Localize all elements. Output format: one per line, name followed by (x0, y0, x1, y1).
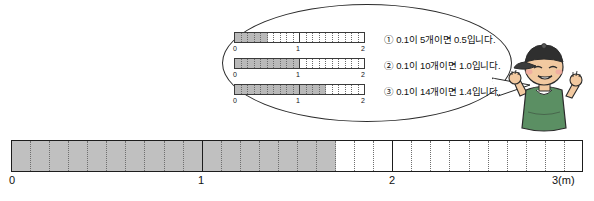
number-line-cell (12, 141, 31, 171)
number-line-cell (470, 141, 489, 171)
mini-bar-3-tick-1: 1 (296, 96, 300, 105)
number-line-cell (393, 141, 412, 171)
number-line-cell (489, 141, 508, 171)
mini-bar-2-tick-2: 2 (361, 70, 365, 79)
number-line-label-3: 3(m) (552, 173, 575, 187)
number-line-tick-1 (202, 140, 203, 172)
mini-bar-row-2: 0 1 2 (234, 58, 366, 80)
number-line-cell (69, 141, 88, 171)
number-line-cell (50, 141, 69, 171)
number-line-cell (145, 141, 164, 171)
number-line-cell (546, 141, 565, 171)
number-line-label-2: 2 (389, 173, 395, 187)
mini-cell (359, 59, 366, 68)
number-line-cell (431, 141, 450, 171)
number-line-cell (203, 141, 222, 171)
bubble-text-2: ② 0.1이 10개이면 1.0입니다. (384, 58, 501, 72)
bubble-row-1: 0 1 2 ① 0.1이 5개이면 0.5입니다. (234, 32, 514, 54)
bubble-text-1: ① 0.1이 5개이면 0.5입니다. (384, 32, 495, 46)
number-line-cell (241, 141, 260, 171)
number-line-cell (222, 141, 241, 171)
boy-character-icon (506, 38, 584, 132)
number-line-cell (184, 141, 203, 171)
number-line-cell (336, 141, 355, 171)
number-line-cell (355, 141, 374, 171)
mini-bar-2-labels: 0 1 2 (234, 70, 366, 80)
mini-bar-1-tick-1: 1 (296, 44, 300, 53)
number-line-label-0: 0 (9, 173, 15, 187)
number-line-cell (260, 141, 279, 171)
bubble-text-3: ③ 0.1이 14개이면 1.4입니다. (384, 84, 501, 98)
mini-bar-3-tick-2: 2 (361, 96, 365, 105)
mini-bar-2-tick-0: 0 (233, 70, 237, 79)
number-line-cell (107, 141, 126, 171)
mini-bar-1-tick-0: 0 (233, 44, 237, 53)
mini-cell (359, 33, 366, 42)
worksheet-figure: 0 1 2 ① 0.1이 5개이면 0.5입니다. 0 1 2 ② 0.1이 1… (0, 0, 594, 201)
number-line-bar (11, 140, 583, 172)
number-line-cell (508, 141, 527, 171)
bubble-row-2: 0 1 2 ② 0.1이 10개이면 1.0입니다. (234, 58, 514, 80)
number-line-tick-2 (392, 140, 393, 172)
number-line-cell (317, 141, 336, 171)
mini-cell (359, 85, 366, 94)
number-line-cell (565, 141, 584, 171)
mini-bar-1-midtick (299, 32, 300, 43)
mini-bar-2-midtick (299, 58, 300, 69)
mini-bar-row-3: 0 1 2 (234, 84, 366, 106)
number-line-cell (165, 141, 184, 171)
number-line-cell (450, 141, 469, 171)
number-line-cell (527, 141, 546, 171)
mini-bar-3-midtick (299, 84, 300, 95)
mini-bar-1-labels: 0 1 2 (234, 44, 366, 54)
number-line-cell (31, 141, 50, 171)
mini-bar-1-tick-2: 2 (361, 44, 365, 53)
number-line-cell (298, 141, 317, 171)
bubble-row-3: 0 1 2 ③ 0.1이 14개이면 1.4입니다. (234, 84, 514, 106)
number-line: 0 1 2 3(m) (11, 140, 583, 172)
mini-bar-3-tick-0: 0 (233, 96, 237, 105)
number-line-cell (279, 141, 298, 171)
mini-bar-2-tick-1: 1 (296, 70, 300, 79)
number-line-cell (88, 141, 107, 171)
number-line-cell (412, 141, 431, 171)
mini-bar-3-labels: 0 1 2 (234, 96, 366, 106)
number-line-cell (126, 141, 145, 171)
number-line-cell (374, 141, 393, 171)
number-line-label-1: 1 (198, 173, 204, 187)
mini-bar-row-1: 0 1 2 (234, 32, 366, 54)
number-line-labels: 0 1 2 3(m) (11, 173, 583, 189)
